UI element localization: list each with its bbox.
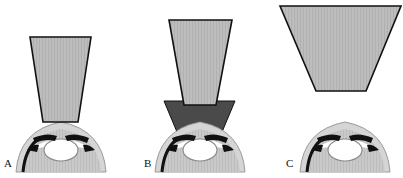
panel-a [16, 37, 106, 172]
panel-b [155, 20, 245, 172]
panel-c [280, 6, 401, 172]
eye-diagram-b [155, 122, 245, 172]
panel-label-a: A [4, 157, 12, 169]
beam-a [30, 37, 91, 122]
beam-b [169, 20, 232, 105]
eye-diagram-c [300, 122, 390, 172]
beam-c [280, 6, 401, 91]
panel-label-b: B [144, 157, 151, 169]
eye-diagram-a [16, 122, 106, 172]
panel-label-c: C [286, 157, 293, 169]
